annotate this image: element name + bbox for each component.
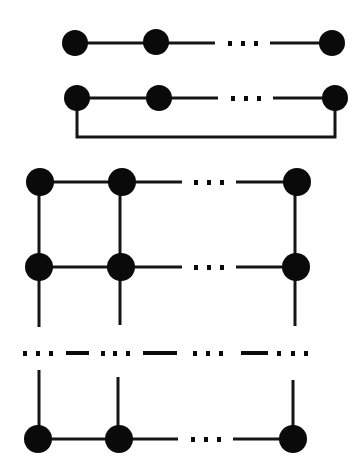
grid-ellipsis-row — [23, 351, 308, 356]
ring-node — [146, 85, 172, 111]
grid-node — [279, 425, 307, 453]
chain-ellipsis — [228, 41, 258, 46]
grid-ellipsis — [191, 180, 224, 442]
ring-ellipsis — [231, 96, 261, 101]
ring-node — [322, 85, 348, 111]
grid-node — [282, 253, 310, 281]
ring-topology — [64, 85, 348, 137]
chain-node — [319, 30, 345, 56]
grid-node — [26, 168, 54, 196]
grid-node — [25, 253, 53, 281]
grid-node — [24, 425, 52, 453]
chain-topology — [62, 29, 345, 56]
ring-closing-edge — [77, 98, 335, 137]
grid-node — [105, 425, 133, 453]
grid-topology — [23, 168, 311, 453]
grid-node — [107, 253, 135, 281]
grid-node — [283, 168, 311, 196]
grid-node — [108, 168, 136, 196]
chain-node — [62, 30, 88, 56]
topology-diagram — [0, 0, 363, 466]
chain-node — [143, 29, 169, 55]
ring-node — [64, 85, 90, 111]
